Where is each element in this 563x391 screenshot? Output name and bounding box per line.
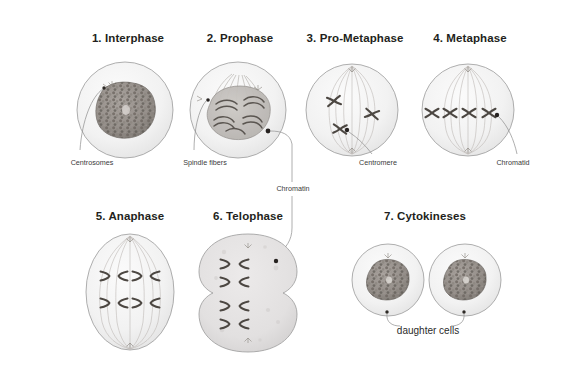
callout-label-chromatin: Chromatin <box>276 184 309 193</box>
stage-title-metaphase: 4. Metaphase <box>433 32 506 44</box>
cell-interphase <box>77 62 173 158</box>
callout-label-daughter-cells: daughter cells <box>397 325 459 336</box>
callout-label-spindle-fibers: Spindle fibers <box>183 158 227 167</box>
diagram-artwork <box>0 0 563 391</box>
stage-title-telophase: 6. Telophase <box>213 210 283 222</box>
callout-label-centrosomes: Centrosomes <box>71 158 114 167</box>
stage-title-cytokineses: 7. Cytokineses <box>384 210 466 222</box>
callout-label-chromatid: Chromatid <box>496 158 529 167</box>
stage-title-anaphase: 5. Anaphase <box>96 210 164 222</box>
mitosis-diagram: 1. Interphase 2. Prophase 3. Pro-Metapha… <box>0 0 563 391</box>
stage-title-pro-metaphase: 3. Pro-Metaphase <box>307 32 404 44</box>
stage-title-interphase: 1. Interphase <box>92 32 164 44</box>
cell-cytokineses <box>352 244 501 326</box>
daughter-cell-left <box>352 244 424 326</box>
cell-telophase <box>199 234 297 352</box>
stage-title-prophase: 2. Prophase <box>207 32 273 44</box>
cell-anaphase <box>86 234 174 350</box>
daughter-cell-right <box>429 244 501 326</box>
callout-label-centromere: Centromere <box>359 158 397 167</box>
cell-pro-metaphase <box>306 64 398 156</box>
cell-metaphase <box>422 64 517 156</box>
